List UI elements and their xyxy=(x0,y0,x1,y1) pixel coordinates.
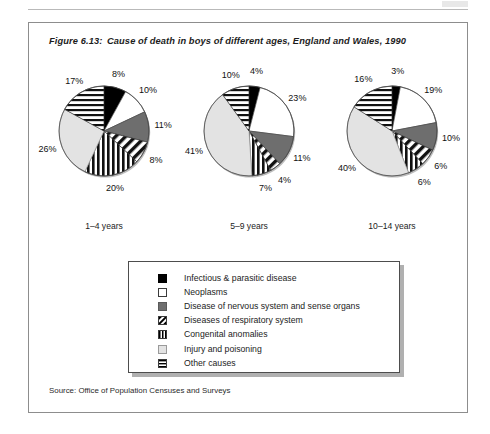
legend-item: Disease of nervous system and sense orga… xyxy=(158,299,360,313)
pie-chart-caption: 10–14 years xyxy=(319,221,465,231)
legend-swatch-solid-black-icon xyxy=(158,274,167,283)
source-note: Source: Office of Population Censuses an… xyxy=(49,386,230,395)
figure-title: Figure 6.13:Cause of death in boys of di… xyxy=(49,36,406,46)
pie-chart-caption: 1–4 years xyxy=(31,221,177,231)
legend-item-label: Disease of nervous system and sense orga… xyxy=(184,302,360,311)
pie-slice-label: 20% xyxy=(106,183,124,193)
pie-slice-label: 16% xyxy=(354,74,372,84)
pie-slice-label: 11% xyxy=(293,153,310,163)
legend-item-label: Diseases of respiratory system xyxy=(184,316,303,325)
pie-slice-label: 6% xyxy=(418,177,431,187)
legend-item: Infectious & parasitic disease xyxy=(158,271,360,285)
legend-list: Infectious & parasitic diseaseNeoplasmsD… xyxy=(158,271,360,370)
legend-item-label: Injury and poisoning xyxy=(184,345,262,354)
legend-item-label: Congenital anomalies xyxy=(184,330,268,339)
pie-slice-label: 41% xyxy=(185,146,203,156)
legend-item-label: Neoplasms xyxy=(184,288,227,297)
pie-slice-label: 6% xyxy=(434,161,447,171)
pie-chart-group: 8%10%11%8%20%26%17%1–4 years4%23%11%4%7%… xyxy=(29,75,469,250)
figure-caption: Cause of death in boys of different ages… xyxy=(107,36,406,46)
legend-swatch-horizontal-stripes-icon xyxy=(158,359,167,368)
pie-slice-label: 10% xyxy=(442,133,460,143)
pie-slice-label: 19% xyxy=(424,85,442,95)
pie-chart-1-4 years: 8%10%11%8%20%26%17%1–4 years xyxy=(31,75,177,250)
legend-item: Injury and poisoning xyxy=(158,342,360,356)
legend-swatch-solid-gray-icon xyxy=(158,302,167,311)
pie-slice-label: 4% xyxy=(250,66,263,76)
legend-swatch-diagonal-hatch-icon xyxy=(158,316,167,325)
figure-frame: Figure 6.13:Cause of death in boys of di… xyxy=(28,22,468,413)
pie-chart-5-9 years: 4%23%11%4%7%41%10%5–9 years xyxy=(176,75,322,250)
legend-item: Neoplasms xyxy=(158,285,360,299)
legend-item: Diseases of respiratory system xyxy=(158,314,360,328)
pie-slice-label: 8% xyxy=(150,155,163,165)
legend-box: Infectious & parasitic diseaseNeoplasmsD… xyxy=(128,261,400,373)
pie-slice-label: 8% xyxy=(112,69,125,79)
pie-graphic xyxy=(197,79,301,183)
pie-slice-label: 17% xyxy=(65,76,83,86)
pie-chart-caption: 5–9 years xyxy=(176,221,322,231)
pie-slice-label: 26% xyxy=(38,144,56,154)
legend-swatch-solid-light-gray-icon xyxy=(158,345,167,354)
pie-slice-label: 3% xyxy=(391,66,404,76)
pie-slice-label: 10% xyxy=(222,70,240,80)
pie-slice-label: 40% xyxy=(338,163,356,173)
pie-slice-label: 4% xyxy=(278,175,291,185)
pie-slice-label: 11% xyxy=(154,120,171,130)
pie-chart-10-14 years: 3%19%10%6%6%40%16%10–14 years xyxy=(319,75,465,250)
legend-swatch-solid-white-icon xyxy=(158,288,167,297)
legend-item: Congenital anomalies xyxy=(158,328,360,342)
legend-item-label: Other causes xyxy=(184,359,236,368)
legend-swatch-vertical-stripes-icon xyxy=(158,330,167,339)
page-top-mark xyxy=(442,1,468,7)
figure-page: Figure 6.13:Cause of death in boys of di… xyxy=(0,0,490,434)
legend-item-label: Infectious & parasitic disease xyxy=(184,274,297,283)
page-top-rule xyxy=(28,9,468,10)
figure-number: Figure 6.13: xyxy=(49,36,107,46)
pie-slice-label: 23% xyxy=(288,93,306,103)
legend-item: Other causes xyxy=(158,356,360,370)
pie-slice-label: 7% xyxy=(259,183,272,193)
pie-slice-label: 10% xyxy=(139,85,157,95)
